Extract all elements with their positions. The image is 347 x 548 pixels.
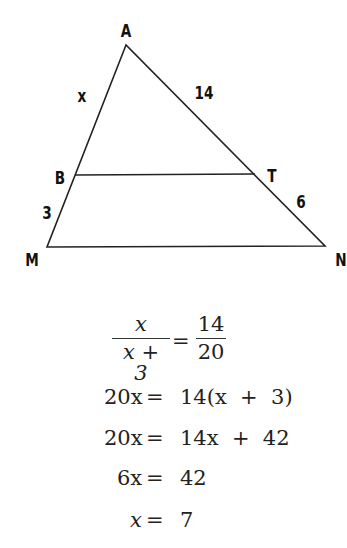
fraction-right: 14 20 (196, 314, 226, 363)
step-3-rhs: 42 (180, 468, 207, 489)
step-4-equals: = (146, 510, 164, 531)
vertex-label-a: A (121, 23, 132, 40)
step-2-equals: = (146, 428, 164, 449)
step-2-lhs: 20x (104, 428, 143, 449)
step-1-lhs: 20x (104, 387, 143, 408)
step-3-lhs: 6x (117, 468, 142, 489)
triangle-amn (47, 45, 325, 247)
segment-label-at: 14 (195, 85, 214, 102)
step-4-rhs: 7 (180, 510, 193, 531)
segment-label-bm: 3 (42, 205, 51, 222)
step-4-lhs: x (130, 510, 142, 531)
segment-bt (75, 174, 255, 175)
vertex-label-m: M (25, 252, 39, 269)
fraction-right-denominator: 20 (196, 338, 227, 363)
step-3-equals: = (146, 468, 164, 489)
fraction-right-numerator: 14 (196, 314, 227, 338)
vertex-label-n: N (335, 252, 346, 269)
triangle-diagram (0, 0, 347, 548)
fraction-left: x x + 3 (112, 314, 170, 384)
segment-label-tn: 6 (296, 194, 305, 211)
fraction-left-numerator: x (133, 314, 149, 338)
segment-label-ab: x (78, 88, 87, 105)
step-1-equals: = (146, 387, 164, 408)
fraction-left-denominator: x + 3 (112, 338, 170, 384)
proportion-equals: = (172, 331, 190, 352)
step-1-rhs: 14(x + 3) (180, 387, 293, 408)
step-2-rhs: 14x + 42 (180, 428, 290, 449)
vertex-label-b: B (55, 170, 65, 187)
vertex-label-t: T (267, 168, 276, 185)
